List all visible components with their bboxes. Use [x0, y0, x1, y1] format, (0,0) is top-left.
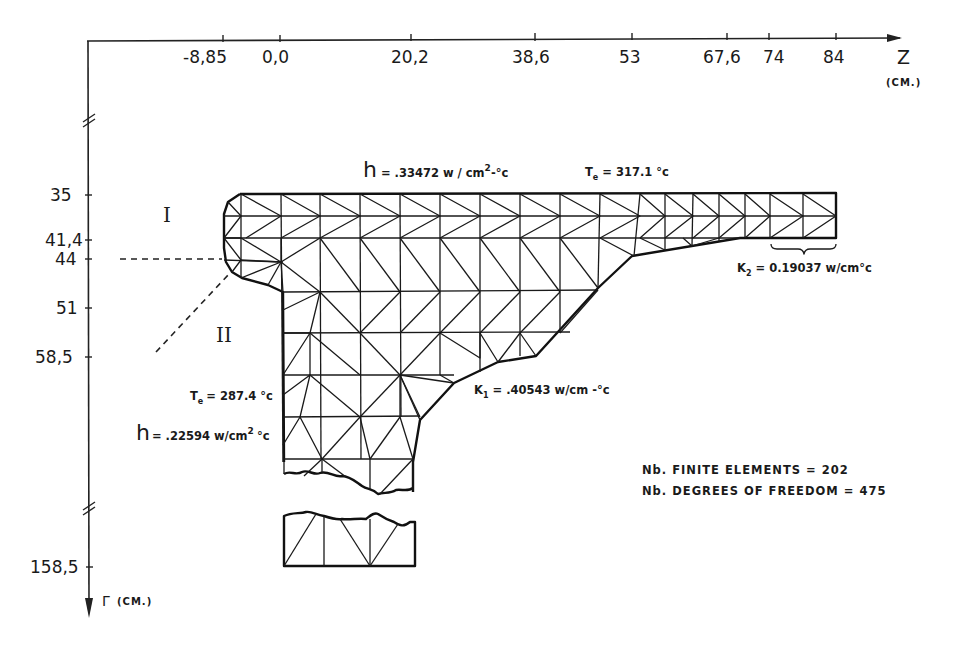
region-i-label: I	[163, 203, 171, 227]
z-axis: -8,85 0,0 20,2 38,6 53 67,6 74 84 Z (CM.…	[87, 33, 921, 88]
r-axis-arrow-icon	[85, 598, 93, 618]
mesh-break-edge	[284, 471, 413, 494]
r-tick-label: 158,5	[30, 557, 79, 577]
h-left-annotation: h= .22594 w/cm2°c	[136, 420, 270, 445]
r-tick-label: 35	[50, 185, 72, 205]
k2-brace-icon	[771, 244, 836, 254]
finite-element-mesh-diagram: -8,85 0,0 20,2 38,6 53 67,6 74 84 Z (CM.…	[0, 0, 956, 647]
region-ii-label: II	[216, 323, 232, 347]
degrees-of-freedom-count: Nb. DEGREES OF FREEDOM = 475	[642, 484, 886, 498]
r-axis-unit: (CM.)	[117, 596, 152, 607]
r-axis-label: Γ	[102, 593, 110, 609]
te-top-annotation: Te= 317.1 °c	[585, 165, 669, 182]
mesh-fragment-boundary	[284, 512, 415, 566]
r-tick-label: 44	[55, 249, 77, 269]
z-axis-arrow-icon	[887, 34, 902, 42]
z-tick-label: 67,6	[703, 47, 741, 67]
k1-annotation: K1= .40543 w/cm -°c	[474, 383, 610, 400]
z-tick-label: 84	[823, 47, 845, 67]
r-axis: 35 41,4 44 51 58,5 158,5 Γ (CM.)	[30, 41, 152, 618]
mesh-lower-fragment	[284, 512, 415, 566]
r-tick-label: 58,5	[35, 347, 73, 367]
z-axis-unit: (CM.)	[886, 77, 921, 88]
h-top-annotation: h= .33472 w / cm2-°c	[363, 157, 508, 182]
r-tick-label: 41,4	[45, 230, 83, 250]
annotations: h= .33472 w / cm2-°c Te= 317.1 °c K2= 0.…	[136, 157, 886, 498]
k2-annotation: K2= 0.19037 w/cm°c	[737, 261, 872, 278]
z-tick-label: 0,0	[262, 47, 289, 67]
z-axis-label: Z	[897, 46, 910, 68]
z-tick-label: 53	[619, 47, 641, 67]
mesh-upper	[224, 193, 836, 494]
z-tick-label: 74	[763, 47, 785, 67]
r-tick-label: 51	[56, 298, 78, 318]
z-tick-label: 38,6	[512, 47, 550, 67]
z-tick-label: 20,2	[391, 47, 429, 67]
te-left-annotation: Te= 287.4 °c	[190, 389, 273, 406]
z-tick-label: -8,85	[183, 47, 227, 67]
finite-elements-count: Nb. FINITE ELEMENTS = 202	[642, 463, 849, 477]
